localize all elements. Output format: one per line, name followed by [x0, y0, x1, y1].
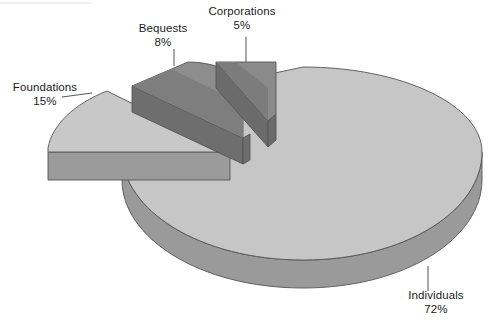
slice-bequests-side2 [243, 134, 250, 164]
pie-chart-graphic [0, 0, 502, 327]
pie-chart-figure: Foundations 15% Bequests 8% Corporations… [0, 0, 502, 327]
slice-label-corporations: Corporations 5% [194, 4, 290, 32]
slice-label-foundations-name: Foundations [2, 80, 88, 94]
slice-label-bequests: Bequests 8% [126, 21, 200, 49]
slice-label-foundations: Foundations 15% [2, 80, 88, 108]
slice-label-corporations-pct: 5% [194, 18, 290, 32]
slice-label-bequests-pct: 8% [126, 35, 200, 49]
slice-label-foundations-pct: 15% [2, 94, 88, 108]
slice-label-individuals-pct: 72% [394, 302, 478, 316]
slice-foundations-side [48, 152, 230, 180]
slice-label-individuals-name: Individuals [394, 288, 478, 302]
slice-label-bequests-name: Bequests [126, 21, 200, 35]
slice-label-corporations-name: Corporations [194, 4, 290, 18]
slice-label-individuals: Individuals 72% [394, 288, 478, 316]
